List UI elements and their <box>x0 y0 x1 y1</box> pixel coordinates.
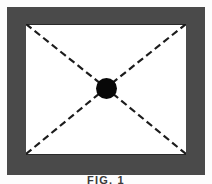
center-node <box>96 78 117 99</box>
figure-caption-strip: FIG. 1 <box>0 176 212 184</box>
figure-container: FIG. 1 <box>0 0 212 184</box>
figure-caption: FIG. 1 <box>0 176 212 184</box>
diagonal-top-left-to-center <box>26 24 106 88</box>
frame-band-top <box>7 7 205 24</box>
diagonal-bottom-right-to-center <box>106 88 186 154</box>
diagonal-top-right-to-center <box>106 24 186 88</box>
frame-band-bottom <box>7 155 205 175</box>
diagonal-bottom-left-to-center <box>26 88 106 154</box>
frame-band-left <box>7 24 26 155</box>
frame-band-right <box>186 24 205 155</box>
